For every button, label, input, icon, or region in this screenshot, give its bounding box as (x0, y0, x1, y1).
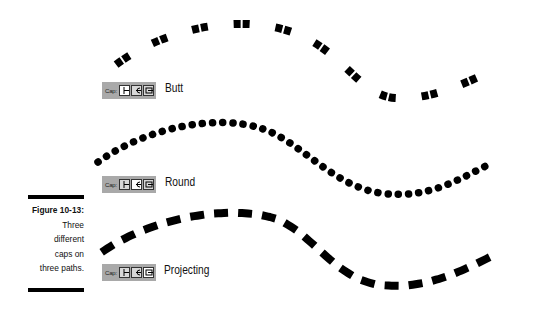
figure-number: Figure 10-13: (28, 203, 84, 218)
projecting-cap-icon (144, 268, 153, 277)
cap-panel-round: Cap: (102, 176, 156, 193)
butt-cap-button[interactable] (119, 85, 130, 96)
cap-name-round: Round (165, 175, 195, 189)
round-cap-path (98, 123, 492, 195)
paths-canvas (0, 0, 560, 312)
round-cap-icon (132, 180, 141, 189)
caption-line: three paths. (28, 261, 84, 276)
butt-cap-button[interactable] (119, 179, 130, 190)
cap-label: Cap: (105, 182, 117, 188)
cap-name-projecting: Projecting (164, 263, 209, 277)
round-cap-button[interactable] (131, 85, 142, 96)
projecting-cap-button[interactable] (143, 179, 154, 190)
projecting-cap-button[interactable] (143, 85, 154, 96)
round-cap-button[interactable] (131, 267, 142, 278)
butt-cap-button[interactable] (119, 267, 130, 278)
cap-panel-projecting: Cap: (102, 264, 156, 281)
projecting-cap-icon (144, 180, 153, 189)
butt-cap-icon (120, 180, 129, 189)
round-cap-button[interactable] (131, 179, 142, 190)
cap-label: Cap: (105, 88, 117, 94)
round-cap-icon (132, 86, 141, 95)
butt-cap-icon (120, 86, 129, 95)
projecting-cap-button[interactable] (143, 267, 154, 278)
round-cap-icon (132, 268, 141, 277)
cap-panel-butt: Cap: (102, 82, 156, 99)
figure-caption: Figure 10-13: Three different caps on th… (28, 203, 84, 276)
butt-cap-icon (120, 268, 129, 277)
caption-top-rule (28, 195, 84, 199)
projecting-cap-icon (144, 86, 153, 95)
caption-line: Three (28, 218, 84, 233)
caption-line: different (28, 232, 84, 247)
caption-bottom-rule (28, 288, 84, 292)
caption-line: caps on (28, 247, 84, 262)
cap-label: Cap: (105, 270, 117, 276)
cap-name-butt: Butt (165, 81, 183, 95)
